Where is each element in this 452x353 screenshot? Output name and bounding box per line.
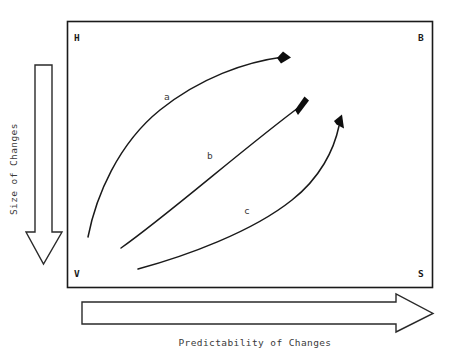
down-arrow-icon (26, 65, 62, 264)
curve-c-line (138, 126, 339, 269)
corner-label-top-left: H (74, 32, 80, 43)
curve-a-label: a (164, 91, 170, 102)
curve-b-label: b (207, 150, 213, 161)
curve-a-line (88, 57, 283, 237)
diagram-canvas: H B V S Size of Changes Predictability o… (0, 0, 452, 353)
curve-a-group: a (88, 52, 291, 238)
curve-c-group: c (138, 115, 344, 270)
curve-a-arrowhead-icon (277, 52, 291, 64)
corner-label-bottom-left: V (74, 268, 80, 279)
vertical-axis-label: Size of Changes (8, 123, 19, 215)
corner-label-top-right: B (418, 32, 424, 43)
curve-b-line (121, 105, 302, 248)
curve-c-label: c (244, 205, 250, 216)
horizontal-axis-label: Predictability of Changes (179, 337, 332, 348)
curve-b-arrowhead-icon (295, 97, 309, 116)
right-arrow-icon (82, 294, 433, 332)
corner-label-bottom-right: S (418, 268, 424, 279)
